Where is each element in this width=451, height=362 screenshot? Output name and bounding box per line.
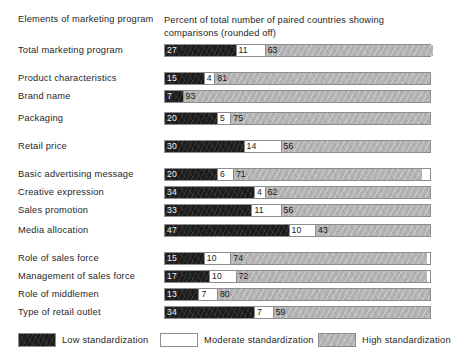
chart-row: Management of sales force171072 bbox=[0, 270, 443, 285]
chart-row: Product characteristics15481 bbox=[0, 72, 443, 87]
stacked-bar: 34462 bbox=[164, 186, 431, 199]
bar-segment-moderate: 4 bbox=[255, 187, 266, 198]
column-header-percent: Percent of total number of paired countr… bbox=[164, 14, 436, 39]
row-label: Product characteristics bbox=[18, 73, 117, 83]
bar-segment-value-low: 17 bbox=[167, 271, 177, 282]
bar-segment-high: 43 bbox=[316, 225, 430, 236]
bar-segment-value-low: 30 bbox=[167, 141, 177, 152]
bar-segment-high: 63 bbox=[266, 45, 433, 56]
legend-item-high: High standardization bbox=[318, 333, 451, 347]
bar-segment-value-high: 81 bbox=[217, 73, 227, 84]
row-label: Type of retail outlet bbox=[18, 307, 101, 317]
bar-segment-value-moderate: 7 bbox=[201, 289, 206, 300]
stacked-bar: 331156 bbox=[164, 204, 431, 217]
column-header-elements: Elements of marketing program bbox=[18, 14, 154, 24]
bar-segment-moderate: 7 bbox=[255, 307, 274, 318]
legend-item-low: Low standardization bbox=[18, 333, 149, 347]
bar-segment-high: 81 bbox=[215, 73, 430, 84]
bar-segment-moderate: 4 bbox=[205, 73, 216, 84]
bar-segment-low: 47 bbox=[165, 225, 290, 236]
bar-segment-low: 27 bbox=[165, 45, 237, 56]
chart-row: Sales promotion331156 bbox=[0, 204, 443, 219]
bar-segment-value-low: 27 bbox=[167, 45, 177, 56]
chart-row: Role of sales force151074 bbox=[0, 252, 443, 267]
bar-segment-value-high: 56 bbox=[284, 205, 294, 216]
bar-segment-high: 56 bbox=[282, 141, 430, 152]
bar-segment-value-high: 75 bbox=[233, 113, 243, 124]
row-label: Media allocation bbox=[18, 225, 88, 235]
bar-segment-low: 15 bbox=[165, 73, 205, 84]
bar-segment-value-moderate: 7 bbox=[257, 307, 262, 318]
bar-segment-value-high: 59 bbox=[276, 307, 286, 318]
stacked-bar: 15481 bbox=[164, 72, 431, 85]
row-label: Total marketing program bbox=[18, 45, 123, 55]
row-label: Sales promotion bbox=[18, 205, 88, 215]
row-label: Retail price bbox=[18, 141, 67, 151]
chart-row: Total marketing program271163 bbox=[0, 44, 443, 59]
bar-segment-moderate: 10 bbox=[290, 225, 317, 236]
bar-segment-value-high: 43 bbox=[318, 225, 328, 236]
bar-segment-value-high: 80 bbox=[220, 289, 230, 300]
bar-segment-moderate: 11 bbox=[237, 45, 266, 56]
row-label: Basic advertising message bbox=[18, 169, 134, 179]
bar-segment-moderate: 6 bbox=[218, 169, 234, 180]
bar-segment-moderate: 14 bbox=[245, 141, 282, 152]
legend-item-moderate: Moderate standardization bbox=[160, 333, 314, 347]
bar-segment-value-moderate: 11 bbox=[254, 205, 263, 216]
bar-segment-low: 33 bbox=[165, 205, 252, 216]
bar-segment-moderate: 5 bbox=[218, 113, 231, 124]
stacked-bar: 301456 bbox=[164, 140, 431, 153]
bar-segment-high: 56 bbox=[282, 205, 430, 216]
chart-row: Retail price301456 bbox=[0, 140, 443, 155]
bar-segment-low: 20 bbox=[165, 169, 218, 180]
bar-segment-value-low: 33 bbox=[167, 205, 177, 216]
stacked-bar: 13780 bbox=[164, 288, 431, 301]
bar-segment-value-moderate: 6 bbox=[220, 169, 225, 180]
bar-segment-moderate: 10 bbox=[210, 271, 237, 282]
chart-row: Role of middlemen13780 bbox=[0, 288, 443, 303]
stacked-bar: 171072 bbox=[164, 270, 431, 283]
chart-header: Elements of marketing program Percent of… bbox=[0, 0, 443, 40]
bar-segment-value-moderate: 4 bbox=[257, 187, 262, 198]
chart-row: Media allocation471043 bbox=[0, 224, 443, 239]
bar-segment-value-high: 72 bbox=[239, 271, 249, 282]
bar-segment-low: 20 bbox=[165, 113, 218, 124]
bar-segment-value-moderate: 10 bbox=[292, 225, 302, 236]
row-label: Management of sales force bbox=[18, 271, 135, 281]
bar-segment-value-high: 56 bbox=[284, 141, 294, 152]
bar-segment-low: 17 bbox=[165, 271, 210, 282]
bar-segment-value-low: 47 bbox=[167, 225, 177, 236]
bar-segment-high: 80 bbox=[218, 289, 430, 300]
row-label: Role of middlemen bbox=[18, 289, 99, 299]
bar-segment-value-high: 62 bbox=[268, 187, 278, 198]
bar-segment-value-high: 63 bbox=[268, 45, 278, 56]
bar-segment-high: 71 bbox=[234, 169, 422, 180]
bar-segment-value-moderate: 11 bbox=[239, 45, 248, 56]
bar-segment-value-low: 20 bbox=[167, 169, 177, 180]
bar-segment-moderate: 10 bbox=[205, 253, 232, 264]
bar-segment-value-moderate: 10 bbox=[207, 253, 217, 264]
chart-row: Type of retail outlet34759 bbox=[0, 306, 443, 321]
legend-label-low: Low standardization bbox=[62, 335, 149, 345]
bar-segment-low: 15 bbox=[165, 253, 205, 264]
legend-swatch-high-icon bbox=[318, 333, 356, 347]
bar-segment-low: 30 bbox=[165, 141, 245, 152]
chart-row: Basic advertising message20671 bbox=[0, 168, 443, 183]
stacked-bar: 20575 bbox=[164, 112, 431, 125]
bar-segment-value-moderate: 14 bbox=[247, 141, 257, 152]
bar-segment-value-moderate: 4 bbox=[207, 73, 212, 84]
bar-segment-high: 93 bbox=[184, 91, 430, 102]
chart-legend: Low standardization Moderate standardiza… bbox=[0, 333, 443, 353]
bar-segment-value-low: 13 bbox=[167, 289, 177, 300]
bar-segment-value-high: 71 bbox=[236, 169, 246, 180]
bar-segment-high: 59 bbox=[274, 307, 430, 318]
bar-segment-high: 72 bbox=[237, 271, 428, 282]
bar-segment-moderate: 7 bbox=[199, 289, 218, 300]
chart-row: Creative expression34462 bbox=[0, 186, 443, 201]
row-label: Creative expression bbox=[18, 187, 104, 197]
stacked-bar: 471043 bbox=[164, 224, 431, 237]
bar-segment-value-low: 34 bbox=[167, 187, 177, 198]
bar-segment-moderate: 11 bbox=[252, 205, 281, 216]
stacked-bar: 151074 bbox=[164, 252, 431, 265]
row-label: Role of sales force bbox=[18, 253, 99, 263]
